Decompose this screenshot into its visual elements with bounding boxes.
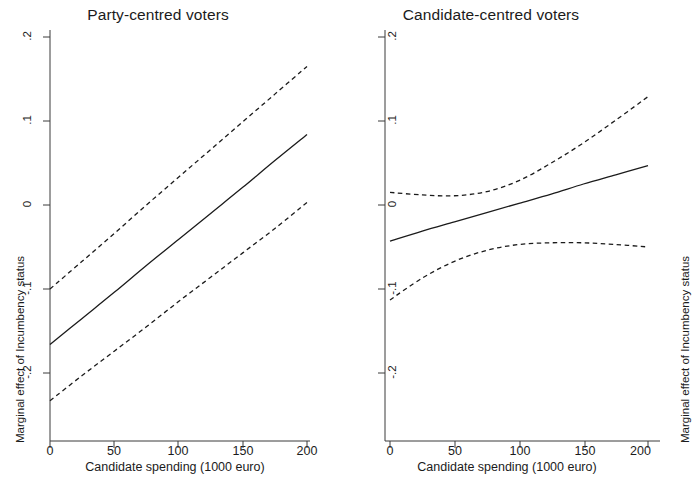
confidence-bound-line bbox=[50, 202, 307, 400]
y-axis-label: Marginal effect of Incumbency status bbox=[679, 0, 696, 443]
chart-panel-party-centred: Party-centred voters Marginal effect of … bbox=[0, 0, 330, 483]
x-axis-ticks bbox=[390, 441, 648, 448]
confidence-bound-line bbox=[50, 66, 307, 289]
confidence-bound-line bbox=[390, 97, 648, 196]
y-axis-ticks bbox=[43, 37, 50, 373]
marginal-effect-line bbox=[50, 134, 307, 344]
x-axis-ticks bbox=[50, 441, 307, 448]
data-curves bbox=[50, 66, 307, 400]
plot-area bbox=[0, 0, 330, 483]
marginal-effect-line bbox=[390, 166, 648, 242]
plot-area bbox=[330, 0, 660, 483]
data-curves bbox=[390, 97, 648, 300]
chart-panel-candidate-centred: Candidate-centred voters Marginal effect… bbox=[330, 0, 660, 483]
y-axis-ticks bbox=[378, 37, 385, 373]
confidence-bound-line bbox=[390, 243, 648, 300]
